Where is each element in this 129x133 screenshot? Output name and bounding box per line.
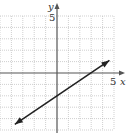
y-axis-arrow-icon bbox=[55, 3, 60, 9]
y-axis-label: y bbox=[47, 1, 54, 12]
x-tick-label: 5 bbox=[110, 76, 116, 87]
x-axis-label: x bbox=[120, 76, 126, 87]
y-tick-label: 5 bbox=[49, 12, 55, 23]
coordinate-plane: y 5 5 x bbox=[0, 0, 129, 133]
plotted-line bbox=[15, 60, 110, 124]
data-line bbox=[15, 60, 110, 124]
x-axis-arrow-icon bbox=[119, 71, 125, 76]
